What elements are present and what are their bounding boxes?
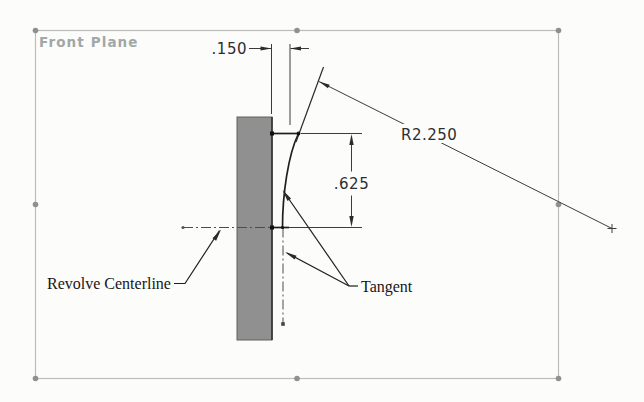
dimension-thickness[interactable]: .150 bbox=[212, 40, 309, 125]
centerline-bottom-endpoint bbox=[281, 322, 285, 326]
plane-border[interactable] bbox=[36, 31, 559, 379]
plane-handle-left-mid bbox=[33, 202, 39, 208]
sketch-viewport: Front Plane .150 bbox=[0, 0, 644, 402]
tangent-callout-leader-arc bbox=[284, 192, 349, 286]
sketch-profile bbox=[270, 67, 324, 340]
arrowhead-left bbox=[290, 46, 301, 50]
revolve-callout-leader bbox=[174, 231, 220, 284]
plane-handle-top-left bbox=[33, 28, 39, 34]
tangent-arrowhead-centerline bbox=[285, 252, 297, 260]
vertex-arc-top bbox=[297, 132, 301, 136]
vertex-arc-bottom bbox=[281, 226, 284, 229]
revolve-centerline-label[interactable]: Revolve Centerline bbox=[47, 275, 171, 292]
tangent-callout-leader-centerline bbox=[287, 253, 349, 286]
dimension-radius[interactable]: R2.250 bbox=[319, 82, 617, 234]
annotation-tangent: Tangent bbox=[283, 190, 413, 296]
plane-handle-top-mid bbox=[294, 28, 300, 34]
arrowhead-radius bbox=[319, 82, 330, 89]
dimension-height[interactable]: .625 bbox=[289, 134, 370, 228]
tangent-construction-line[interactable] bbox=[296, 67, 324, 142]
centerline-left-endpoint bbox=[181, 226, 184, 229]
dim-height-value[interactable]: .625 bbox=[334, 175, 369, 193]
tangent-label[interactable]: Tangent bbox=[361, 278, 413, 296]
sketch-canvas: Front Plane .150 bbox=[0, 0, 644, 402]
profile-arc[interactable] bbox=[283, 134, 299, 228]
dim-thickness-value[interactable]: .150 bbox=[212, 40, 247, 58]
dim-radius-value[interactable]: R2.250 bbox=[401, 126, 457, 144]
plane-handle-bottom-mid bbox=[294, 376, 300, 382]
annotation-revolve-centerline: Revolve Centerline bbox=[47, 230, 221, 293]
revolve-callout-arrowhead bbox=[213, 230, 222, 241]
arrowhead-down bbox=[349, 216, 353, 227]
plane-handle-top-right bbox=[556, 28, 562, 34]
radius-center-cross bbox=[608, 224, 617, 233]
plane-handle-bottom-left bbox=[33, 376, 39, 382]
plane-name-label: Front Plane bbox=[39, 34, 139, 50]
arrowhead-up bbox=[349, 134, 353, 145]
vertex-top-left bbox=[270, 132, 274, 136]
plane-handle-dots bbox=[33, 28, 562, 382]
plane-handle-bottom-right bbox=[556, 376, 562, 382]
radius-leader bbox=[319, 82, 612, 229]
revolved-section-region[interactable] bbox=[237, 117, 272, 340]
vertex-bottom-left bbox=[270, 226, 274, 230]
front-plane-boundary[interactable]: Front Plane bbox=[33, 28, 562, 382]
arrowhead-right bbox=[261, 46, 272, 50]
